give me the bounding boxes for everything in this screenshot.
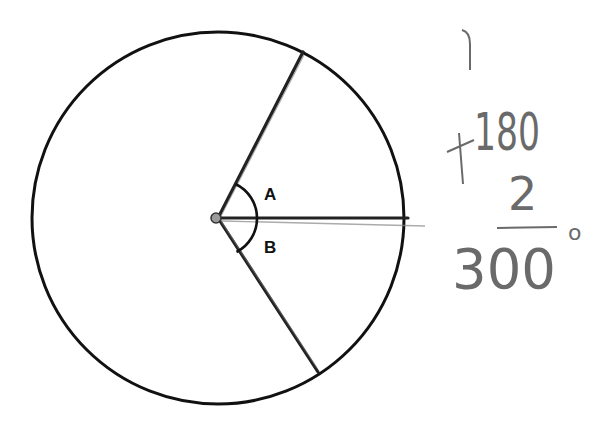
handwritten-calculation: 180 2 300 o — [447, 30, 581, 301]
addend-bottom: 2 — [508, 167, 537, 221]
sum: 300 — [452, 236, 556, 301]
plus-sign — [447, 133, 474, 184]
circle-diagram: A B 180 2 300 o — [0, 0, 613, 426]
pencil-overtrace-upper — [221, 55, 304, 216]
sum-line — [497, 227, 557, 228]
degree-symbol: o — [568, 220, 581, 245]
pencil-overtrace — [222, 221, 425, 226]
addend-top: 180 — [474, 102, 540, 162]
radius-upper — [218, 52, 303, 218]
center-point — [211, 213, 221, 223]
carry-mark — [462, 30, 470, 70]
angle-label-b: B — [264, 238, 276, 257]
angle-label-a: A — [264, 185, 276, 204]
